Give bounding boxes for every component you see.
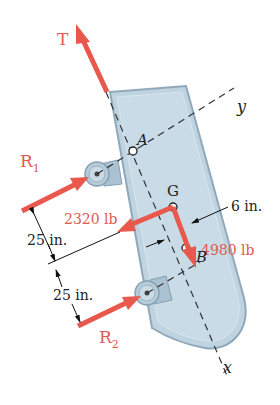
label-6in: 6 in. — [231, 198, 262, 214]
label-A: A — [135, 131, 148, 149]
label-G: G — [167, 182, 179, 200]
label-T: T — [57, 29, 69, 49]
label-R2: R2 — [99, 327, 119, 351]
label-B: B — [195, 248, 207, 266]
force-T-arrow — [76, 24, 107, 92]
free-body-diagram: T R1 R2 2320 lb 4980 lb A G B y x 6 in. … — [0, 0, 280, 405]
label-2320-lb: 2320 lb — [64, 211, 118, 227]
dimension-25in-lines — [34, 214, 120, 322]
label-y-axis: y — [236, 97, 247, 116]
label-4980-lb: 4980 lb — [201, 242, 255, 258]
label-25in-upper: 25 in. — [27, 232, 67, 248]
point-A-marker — [129, 147, 137, 155]
label-x-axis: x — [223, 358, 232, 377]
label-25in-lower: 25 in. — [53, 287, 93, 303]
force-R1-arrow — [22, 177, 89, 211]
label-R1: R1 — [20, 151, 40, 175]
